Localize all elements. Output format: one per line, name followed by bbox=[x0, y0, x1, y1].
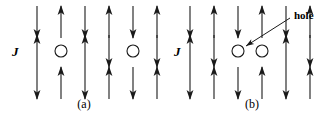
spin-arrow-down bbox=[30, 66, 44, 100]
vacancy-circle bbox=[54, 34, 68, 68]
spin-arrow-up bbox=[30, 34, 44, 68]
panel-a: J (a) bbox=[0, 0, 168, 123]
spin-arrow-up bbox=[183, 34, 197, 68]
spin-arrow-up bbox=[54, 66, 68, 100]
spin-arrow-up bbox=[303, 66, 317, 100]
spin-arrow-up bbox=[150, 66, 164, 100]
figure-container: J (a) J hole (b) bbox=[0, 0, 336, 123]
spin-arrow-down bbox=[207, 34, 221, 68]
spin-arrow-up bbox=[207, 66, 221, 100]
spin-arrow-down bbox=[183, 66, 197, 100]
spin-arrow-down bbox=[126, 66, 140, 100]
panel-b: J hole (b) bbox=[168, 0, 336, 123]
spin-arrow-down bbox=[231, 66, 245, 100]
vacancy-circle bbox=[255, 34, 269, 68]
spin-arrow-down bbox=[102, 34, 116, 68]
spin-arrow-up bbox=[279, 34, 293, 68]
spin-arrow-down bbox=[150, 34, 164, 68]
spin-arrow-down bbox=[279, 66, 293, 100]
spin-arrow-down bbox=[303, 34, 317, 68]
hole-annotation-label: hole bbox=[294, 10, 314, 21]
panel-caption-a: (a) bbox=[0, 97, 168, 112]
vacancy-circle bbox=[126, 34, 140, 68]
vacancy-circle bbox=[231, 34, 245, 68]
spin-arrow-up bbox=[102, 66, 116, 100]
spin-arrow-up bbox=[255, 66, 269, 100]
spin-arrow-up bbox=[78, 34, 92, 68]
spin-arrow-down bbox=[78, 66, 92, 100]
panel-caption-b: (b) bbox=[168, 97, 336, 112]
